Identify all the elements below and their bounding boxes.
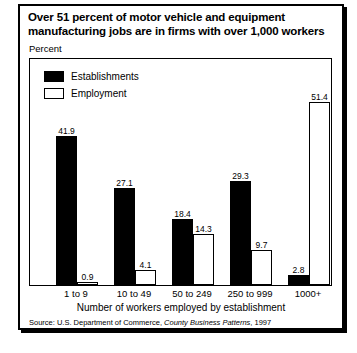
category-label: 250 to 999	[228, 288, 273, 299]
source-suffix: , 1997	[250, 318, 271, 327]
title-line-1: Over 51 percent of motor vehicle and equ…	[28, 11, 334, 25]
bar-value-label: 27.1	[116, 178, 133, 188]
source-note: Source: U.S. Department of Commerce, Cou…	[29, 318, 271, 327]
legend-swatch-establishments	[44, 71, 64, 82]
bar-establishments-0: 41.9	[56, 136, 77, 285]
bar-employment-4: 51.4	[309, 102, 330, 285]
bar-employment-3: 9.7	[251, 250, 272, 285]
bar-value-label: 18.4	[174, 209, 191, 219]
legend-label-establishments: Establishments	[71, 71, 139, 82]
bar-employment-2: 14.3	[193, 234, 214, 285]
bar-value-label: 9.7	[256, 240, 268, 250]
bar-value-label: 29.3	[232, 171, 249, 181]
legend-item-establishments: Establishments	[44, 69, 139, 83]
figure-frame: Over 51 percent of motor vehicle and equ…	[18, 4, 344, 330]
category-label: 1000+	[295, 288, 322, 299]
bar-employment-0: 0.9	[77, 282, 98, 285]
source-prefix: Source: U.S. Department of Commerce,	[29, 318, 164, 327]
plot-area: Establishments Employment 41.90.927.14.1…	[29, 58, 332, 286]
bar-value-label: 0.9	[82, 272, 94, 282]
bar-establishments-3: 29.3	[230, 181, 251, 285]
bar-value-label: 41.9	[58, 126, 75, 136]
bar-value-label: 14.3	[195, 224, 212, 234]
bar-value-label: 2.8	[293, 265, 305, 275]
x-axis-title: Number of workers employed by establishm…	[20, 302, 342, 313]
bar-plot: 41.90.927.14.118.414.329.39.72.851.4	[30, 89, 331, 285]
category-axis: 1 to 910 to 4950 to 249250 to 9991000+	[29, 288, 332, 302]
category-label: 10 to 49	[117, 288, 151, 299]
bar-group: 29.39.7	[230, 89, 272, 285]
bar-establishments-2: 18.4	[172, 219, 193, 285]
y-axis-unit-label: Percent	[29, 43, 62, 54]
bar-establishments-1: 27.1	[114, 188, 135, 285]
bar-employment-1: 4.1	[135, 270, 156, 285]
bar-value-label: 51.4	[311, 92, 328, 102]
source-publication: County Business Patterns	[164, 318, 250, 327]
title-line-2: manufacturing jobs are in firms with ove…	[28, 25, 334, 39]
category-label: 50 to 249	[172, 288, 212, 299]
bar-establishments-4: 2.8	[288, 275, 309, 285]
bar-group: 2.851.4	[288, 89, 330, 285]
bar-group: 27.14.1	[114, 89, 156, 285]
bar-value-label: 4.1	[140, 260, 152, 270]
category-label: 1 to 9	[64, 288, 88, 299]
chart-title: Over 51 percent of motor vehicle and equ…	[28, 11, 334, 38]
bar-group: 41.90.9	[56, 89, 98, 285]
bar-group: 18.414.3	[172, 89, 214, 285]
